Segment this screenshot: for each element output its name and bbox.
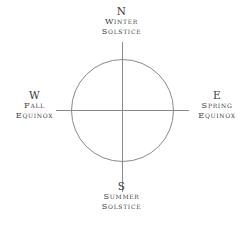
east-event-word: Equinox <box>191 111 243 121</box>
south-event-word: Solstice <box>0 202 243 212</box>
label-south: S Summer Solstice <box>0 180 243 212</box>
label-east: E Spring Equinox <box>191 89 243 121</box>
north-event-word: Solstice <box>0 27 243 37</box>
label-west: W Fall Equinox <box>0 89 69 121</box>
label-north: N Winter Solstice <box>0 5 243 37</box>
west-event-word: Equinox <box>0 111 69 121</box>
seasonal-compass-diagram: N Winter Solstice S Summer Solstice W Fa… <box>0 0 243 226</box>
